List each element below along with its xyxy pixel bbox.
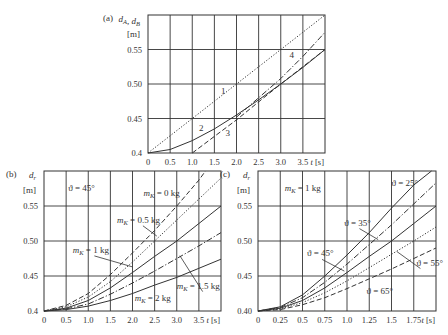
y-tick-label: 0.55 [23,201,38,211]
x-tick-label: 1.0 [342,315,353,325]
curve-label: ϑ = 45° [307,248,334,258]
x-tick-label: 0 [256,315,260,325]
x-tick-label: 1.5 [209,157,220,167]
figure: 00.51.01.52.02.53.03.5t [s]0.40.450.500.… [0,0,448,335]
y-tick-label: 0.45 [23,271,38,281]
y-tick-label: 0.55 [127,45,142,55]
y-tick-label: 0.50 [23,236,38,246]
x-tick-label: 2.0 [127,315,138,325]
curve-label: mK = 2 kg [135,293,172,304]
x-tick-label: 0.5 [297,315,308,325]
x-tick-label: 3.0 [171,315,182,325]
x-tick-label: 1.0 [83,315,94,325]
panel-label: (a) [103,13,113,23]
curve-number-label: 1 [221,86,226,96]
y-tick-label: 0.4 [131,148,142,158]
curve-number-label: 2 [199,123,204,133]
x-tick-label: 1.5 [105,315,116,325]
y-axis-unit: [m] [237,185,250,195]
x-tick-label: 0 [42,315,46,325]
panel-label: (c) [220,169,230,179]
condition-annotation: mK = 1 kg [285,183,322,194]
curve-label: ϑ = 35° [344,218,371,228]
x-tick-label: 2.0 [231,157,242,167]
panel-b: 00.51.01.52.02.53.03.5t [s]0.40.450.500.… [6,169,221,325]
y-tick-label: 0.45 [237,271,252,281]
y-axis-unit: [m] [127,29,140,39]
x-axis-label: t [s] [207,315,221,325]
y-tick-label: 0.40 [237,306,252,316]
x-tick-label: 3.5 [298,157,309,167]
x-tick-label: 1.0 [187,157,198,167]
x-tick-label: 2.5 [253,157,264,167]
panel-a: 00.51.01.52.02.53.03.5t [s]0.40.450.500.… [103,13,325,167]
y-tick-label: 0.4 [27,306,38,316]
x-tick-label: 3.5 [194,315,205,325]
curve-label: ϑ = 25° [392,178,419,188]
leader-line [94,256,132,267]
x-tick-label: 0.25 [273,315,288,325]
curve-label: ϑ = 65° [367,286,394,296]
panel-label: (b) [6,169,17,179]
x-tick-label: 0.5 [165,157,176,167]
x-tick-label: 1.25 [362,315,377,325]
x-tick-label: 0 [146,157,150,167]
y-axis-label: dr [243,170,251,181]
curve-label: mK = 0.5 kg [117,215,160,226]
x-axis-label: t [s] [422,315,436,325]
condition-annotation: ϑ = 45° [68,183,95,193]
y-axis-unit: [m] [23,185,36,195]
y-axis-label: dr [29,170,37,181]
y-tick-label: 0.45 [127,114,142,124]
curve-number-label: 3 [225,128,230,138]
panel-c: 00.250.50.751.01.251.51.75t [s]0.400.450… [220,169,443,325]
x-tick-label: 1.75 [406,315,421,325]
x-tick-label: 0.5 [61,315,72,325]
x-tick-label: 2.5 [149,315,160,325]
curve-label: mK = 1.5 kg [177,281,220,292]
x-axis-label: t [s] [311,157,325,167]
y-tick-label: 0.50 [127,79,142,89]
x-tick-label: 1.5 [386,315,397,325]
y-tick-label: 0.55 [237,201,252,211]
x-tick-label: 0.75 [317,315,332,325]
y-tick-label: 0.50 [237,236,252,246]
curve-label: ϑ = 55° [416,258,443,268]
curve-label: mK = 0 kg [144,188,181,199]
y-axis-label: dA, dB [119,14,140,27]
x-tick-label: 3.0 [275,157,286,167]
curve-number-label: 4 [290,50,295,60]
curve-label: mK = 1 kg [73,245,110,256]
